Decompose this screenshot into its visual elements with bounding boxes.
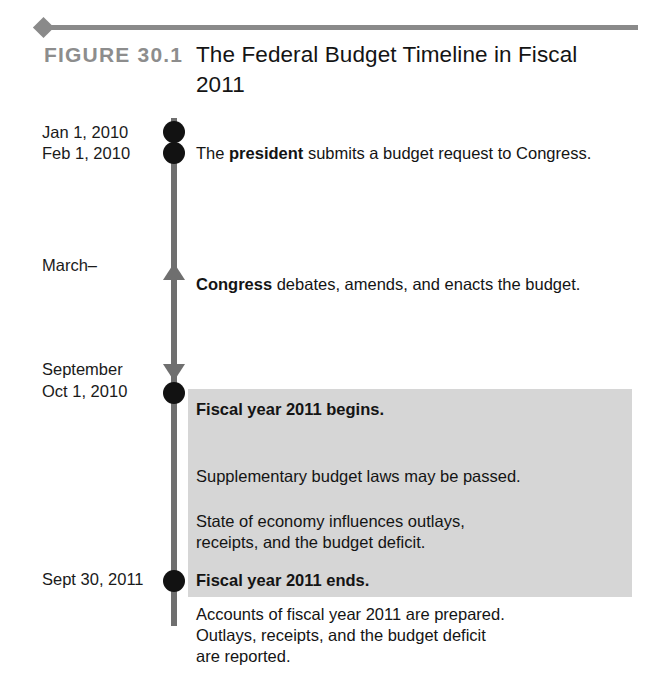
event-accounts-prepared: Accounts of fiscal year 2011 are prepare… [196,604,505,667]
figure-header: FIGURE 30.1The Federal Budget Timeline i… [44,40,644,100]
event-president-prefix: The [196,144,229,162]
event-state-of-economy: State of economy influences outlays, rec… [196,511,465,553]
timeline-dot-feb-1-2010 [163,142,185,164]
date-label-sept-30-2011: Sept 30, 2011 [42,569,166,590]
timeline-dot-sept-30-2011 [163,570,185,592]
event-congress: Congress debates, amends, and enacts the… [196,274,580,295]
event-fiscal-year-begins: Fiscal year 2011 begins. [196,399,384,420]
event-president-suffix: submits a budget request to Congress. [303,144,591,162]
date-label-oct-1-2010: Oct 1, 2010 [42,381,166,402]
figure-label: FIGURE 30.1 [44,40,196,70]
event-president-bold: president [229,144,303,162]
date-label-march: March– [42,255,166,276]
figure-title: The Federal Budget Timeline in Fiscal 20… [196,40,596,100]
date-label-september: September [42,359,166,380]
fiscal-year-shaded-panel [188,389,632,597]
event-fiscal-year-ends: Fiscal year 2011 ends. [196,570,369,591]
timeline-dot-jan-1-2010 [163,121,185,143]
timeline-dot-oct-1-2010 [163,382,185,404]
date-label-feb-1-2010: Feb 1, 2010 [42,143,166,164]
rule-bar [46,25,638,30]
event-congress-bold: Congress [196,275,272,293]
arrow-up-icon [163,263,185,280]
date-label-jan-1-2010: Jan 1, 2010 [42,122,166,143]
event-congress-suffix: debates, amends, and enacts the budget. [272,275,580,293]
event-supplementary-laws: Supplementary budget laws may be passed. [196,466,521,487]
event-president: The president submits a budget request t… [196,143,591,164]
arrow-down-icon [163,364,185,381]
header-rule [36,24,638,31]
